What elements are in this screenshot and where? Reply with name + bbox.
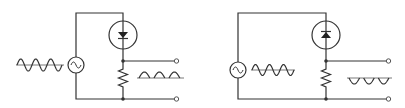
diode-icon [109,21,137,49]
output-terminal-top [174,59,178,63]
rectifier-diagram [0,0,405,108]
wire-loop [238,13,326,99]
junction-top [324,59,328,63]
output-terminal-bottom [174,97,178,101]
resistor-icon [119,66,128,91]
input-waveform [251,65,295,76]
junction-top [121,59,125,63]
ac-source-icon [230,62,246,78]
diode-icon [312,21,340,49]
resistor-icon [322,66,331,91]
output-terminal-bottom [386,97,390,101]
output-terminal-top [386,59,390,63]
wire-loop [76,13,123,99]
output-waveform [347,78,392,84]
ac-source-icon [68,57,84,73]
input-waveform [16,59,64,71]
circuit-negative-rectifier [230,13,392,101]
junction-bottom [324,97,328,101]
junction-bottom [121,97,125,101]
output-waveform [137,72,184,78]
circuit-positive-rectifier [16,13,184,101]
